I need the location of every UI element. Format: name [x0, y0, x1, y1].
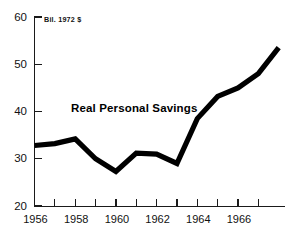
y-tick-label-40: 40 — [14, 105, 27, 117]
unit-note-label: Bil. 1972 $ — [44, 15, 81, 24]
chart-background — [0, 0, 291, 236]
real-personal-savings-line-chart: 2030405060 195619581960196219641966 Bil.… — [0, 0, 291, 236]
x-tick-label-1962: 1962 — [145, 213, 169, 225]
x-tick-label-1960: 1960 — [105, 213, 129, 225]
y-tick-label-60: 60 — [14, 11, 27, 23]
y-tick-label-20: 20 — [14, 200, 27, 212]
x-tick-label-1956: 1956 — [23, 213, 47, 225]
y-tick-label-30: 30 — [14, 152, 27, 164]
x-tick-label-1964: 1964 — [186, 213, 210, 225]
series-title-label: Real Personal Savings — [71, 102, 198, 114]
y-tick-label-50: 50 — [14, 58, 27, 70]
chart-container: 2030405060 195619581960196219641966 Bil.… — [0, 0, 291, 236]
x-tick-label-1966: 1966 — [227, 213, 251, 225]
x-tick-label-1958: 1958 — [64, 213, 88, 225]
